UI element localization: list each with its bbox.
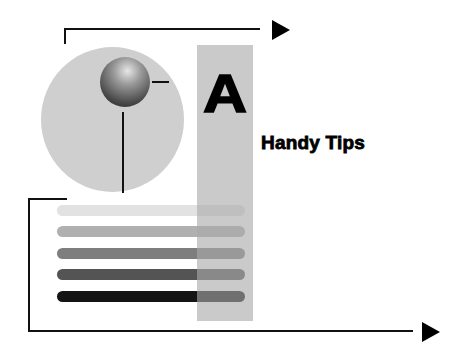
pushpin-icon bbox=[100, 57, 150, 107]
section-letter: A bbox=[193, 66, 257, 122]
top-arrow-icon bbox=[272, 20, 290, 40]
bottom-bracket-horizontal-top bbox=[28, 198, 67, 200]
bottom-bracket-vertical bbox=[28, 198, 30, 332]
top-bracket-vertical bbox=[64, 28, 66, 44]
bottom-arrow-icon bbox=[422, 322, 440, 342]
pin-needle bbox=[122, 112, 124, 193]
bottom-bracket-horizontal bbox=[28, 330, 413, 332]
section-title: Handy Tips bbox=[261, 132, 365, 154]
pin-tick bbox=[152, 81, 169, 83]
top-bracket-horizontal bbox=[64, 28, 260, 30]
